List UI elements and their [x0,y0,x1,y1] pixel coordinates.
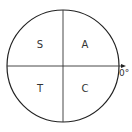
quadrant-label-c: C [82,83,89,94]
zero-degree-label: 0° [119,68,129,78]
quadrant-label-s: S [37,39,43,50]
quadrant-label-a: A [82,39,89,50]
quadrant-label-t: T [36,83,44,94]
cast-diagram: S A T C 0° [0,0,132,132]
